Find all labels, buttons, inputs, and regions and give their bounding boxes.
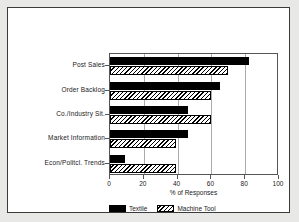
x-axis-tick-label: 0 (107, 180, 111, 187)
bar-group (110, 127, 277, 151)
y-axis-label: Econ/Politcl. Trends (45, 159, 105, 166)
x-axis-tick-label: 80 (241, 180, 248, 187)
bar-textile (110, 155, 125, 163)
bar-group (110, 54, 277, 78)
x-axis-tick-label: 40 (173, 180, 180, 187)
x-axis-tick-label: 60 (207, 180, 214, 187)
bar-machine-tool (110, 164, 176, 173)
y-axis-label: Order Backlog (62, 86, 106, 93)
y-axis-label: Market Information (48, 134, 105, 141)
x-axis-tick (177, 175, 178, 179)
legend-entry-textile: Textile (109, 205, 147, 212)
x-axis-tick-label: 100 (273, 180, 284, 187)
y-axis-label: Co./Industry Sit. (56, 110, 105, 117)
plot-area (109, 53, 278, 175)
bar-textile (110, 82, 220, 90)
y-axis-labels: Post SalesOrder BacklogCo./Industry Sit.… (8, 53, 105, 175)
bar-machine-tool (110, 91, 211, 100)
x-axis-tick (109, 175, 110, 179)
figure-frame: Post SalesOrder BacklogCo./Industry Sit.… (7, 7, 290, 213)
legend-swatch-machine-tool (157, 205, 174, 212)
bar-textile (110, 130, 188, 138)
legend-entry-machine-tool: Machine Tool (157, 205, 215, 212)
chart-legend: Textile Machine Tool (109, 201, 289, 215)
bar-textile (110, 57, 249, 65)
figure-background: Post SalesOrder BacklogCo./Industry Sit.… (0, 0, 299, 222)
x-axis-title: % of Responses (109, 189, 278, 196)
bar-group (110, 103, 277, 127)
bar-group (110, 152, 277, 176)
bar-machine-tool (110, 115, 211, 124)
x-axis-tick (143, 175, 144, 179)
x-axis-tick (210, 175, 211, 179)
bar-group (110, 78, 277, 102)
legend-label-textile: Textile (129, 205, 147, 212)
legend-swatch-textile (109, 205, 126, 212)
bar-machine-tool (110, 139, 176, 148)
bar-textile (110, 106, 188, 114)
x-axis-tick-label: 20 (139, 180, 146, 187)
legend-label-machine-tool: Machine Tool (177, 205, 215, 212)
x-axis-tick (278, 175, 279, 179)
x-axis-tick (244, 175, 245, 179)
y-axis-label: Post Sales (72, 61, 105, 68)
bar-machine-tool (110, 66, 228, 75)
